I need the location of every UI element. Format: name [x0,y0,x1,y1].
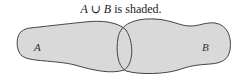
set-b-region [117,19,230,74]
label-b: B [202,41,209,53]
label-a: A [33,41,41,53]
venn-diagram: A B [0,0,242,80]
